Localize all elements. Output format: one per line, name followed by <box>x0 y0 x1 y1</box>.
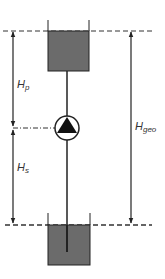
lower-tank <box>48 213 90 265</box>
hs-label: Hs <box>17 161 29 175</box>
pump-head-diagram: Hp Hs Hgeo <box>0 0 165 279</box>
hp-label: Hp <box>17 78 30 92</box>
pump-icon <box>55 116 79 140</box>
hgeo-label: Hgeo <box>135 120 157 134</box>
upper-tank <box>48 20 89 71</box>
